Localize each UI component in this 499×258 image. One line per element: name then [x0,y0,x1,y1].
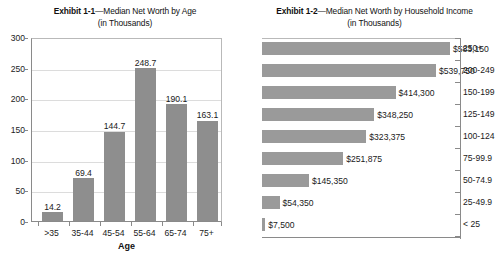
y-axis-label: 50 [1,187,25,196]
bar-150-199 [262,86,396,99]
bar-value-label: 69.4 [66,169,102,178]
x-tick-mark [100,222,101,226]
x-tick-mark [221,222,222,226]
x-tick-mark [38,222,39,226]
x-tick-mark [69,222,70,226]
y-tick-mark [25,161,28,162]
bar-gt35 [42,212,63,221]
chart-right-exhibit-number: Exhibit 1-2 [276,6,317,16]
figure-container: Exhibit 1-1—Median Net Worth by Age (in … [0,0,499,258]
chart-left-title: Exhibit 1-1—Median Net Worth by Age [0,6,250,17]
bar-35-44 [73,178,94,221]
chart-right-title-text: Median Net Worth by Household Income [326,6,473,16]
category-tick-mark [455,60,460,61]
category-tick-mark [455,236,460,237]
bar-45-54 [104,132,125,221]
y-tick-mark [25,222,28,223]
chart-right-subtitle: (in Thousands) [250,18,499,29]
category-tick-mark [455,192,460,193]
gridline [32,192,221,193]
y-tick-mark [25,191,28,192]
category-label-50-74-9: 50-74.9 [463,176,492,185]
category-label-25-49-9: 25-49.9 [463,198,492,207]
chart-right-title-dash: — [317,6,325,16]
chart-exhibit-1-2: Exhibit 1-2—Median Net Worth by Househol… [250,0,499,258]
category-label-200-249: 200-249 [463,66,495,75]
bar-value-label: $323,375 [369,133,405,142]
y-axis-label: 300 [1,34,25,43]
chart-left-y-axis: 300 250 200 150 100 50 0 [0,38,28,222]
category-label-150-199: 150-199 [463,88,495,97]
category-tick-mark [455,104,460,105]
x-axis-label-gt35: >35 [35,228,69,238]
bar-75-99-9 [262,152,343,165]
bar-25-49-9 [262,196,280,209]
category-tick-mark [455,82,460,83]
bar-value-label: $54,350 [283,199,314,208]
category-label-100-124: 100-124 [463,132,495,141]
chart-left-title-text: Median Net Worth by Age [103,6,196,16]
bar-under-25 [262,218,265,231]
bar-50-74-9 [262,174,309,187]
y-axis-label: 0 [1,218,25,227]
bar-value-label: $145,350 [312,177,348,186]
bar-75plus [197,121,218,221]
bar-200-249 [262,64,436,77]
chart-left-axis-title: Age [31,241,222,251]
chart-left-subtitle: (in Thousands) [0,18,250,29]
chart-left-exhibit-number: Exhibit 1-1 [54,6,95,16]
bar-value-label: 163.1 [190,111,226,120]
chart-right-plot-area: $583,150 $539,750 $414,300 $348,250 $323… [262,38,460,238]
y-tick-mark [25,38,28,39]
chart-exhibit-1-1: Exhibit 1-1—Median Net Worth by Age (in … [0,0,250,258]
y-tick-mark [25,99,28,100]
chart-left-x-axis: >35 35-44 45-54 55-64 65-74 75+ [31,222,222,242]
y-tick-mark [25,130,28,131]
x-axis-label-55-64: 55-64 [128,228,162,238]
bar-100-124 [262,130,366,143]
bar-250plus [262,42,450,55]
category-tick-mark [455,148,460,149]
x-axis-label-75plus: 75+ [190,228,224,238]
chart-right-category-labels: 250+ 200-249 150-199 125-149 100-124 75-… [455,38,499,238]
bar-65-74 [166,104,187,221]
x-axis-label-45-54: 45-54 [97,228,131,238]
chart-right-title: Exhibit 1-2—Median Net Worth by Househol… [250,6,499,17]
gridline [32,70,221,71]
bar-55-64 [135,68,156,221]
category-label-under-25: < 25 [463,220,480,229]
bar-value-label: $7,500 [268,221,294,230]
y-axis-label: 250 [1,64,25,73]
bar-125-149 [262,108,374,121]
x-axis-label-65-74: 65-74 [159,228,193,238]
category-tick-mark [455,38,460,39]
bar-value-label: 144.7 [97,122,133,131]
chart-left-plot-area: 14.2 69.4 144.7 248.7 190.1 163.1 [31,38,222,222]
category-tick-mark [455,214,460,215]
category-tick-mark [455,126,460,127]
x-tick-mark [131,222,132,226]
bar-value-label: $414,300 [399,89,435,98]
y-tick-mark [25,69,28,70]
y-axis-label: 200 [1,95,25,104]
bar-value-label: 190.1 [159,95,195,104]
y-axis-label: 150 [1,126,25,135]
x-axis-label-35-44: 35-44 [66,228,100,238]
bar-value-label: 248.7 [128,59,164,68]
bar-value-label: 14.2 [35,203,71,212]
bar-value-label: $251,875 [346,155,382,164]
category-label-125-149: 125-149 [463,110,495,119]
x-tick-mark [162,222,163,226]
gridline [32,162,221,163]
category-tick-mark [455,170,460,171]
category-label-75-99-9: 75-99.9 [463,154,492,163]
category-label-250plus: 250+ [463,44,482,53]
bar-value-label: $348,250 [377,111,413,120]
x-tick-mark [193,222,194,226]
y-axis-label: 100 [1,156,25,165]
